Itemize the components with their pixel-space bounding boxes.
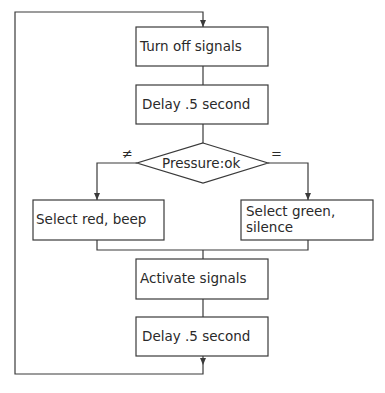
decision-label: Pressure:ok	[162, 155, 240, 172]
equal-label: =	[271, 146, 282, 161]
select-green-label-line2: silence	[246, 219, 293, 236]
turn-off-signals-label: Turn off signals	[140, 38, 242, 55]
select-green-label-line1: Select green,	[246, 203, 335, 220]
arrow-down-icon	[200, 20, 206, 27]
select-red-label: Select red, beep	[36, 211, 146, 228]
equal-branch	[268, 163, 308, 200]
merge-connector	[97, 240, 308, 250]
activate-signals-label: Activate signals	[140, 270, 247, 287]
delay-label-1: Delay .5 second	[142, 96, 250, 113]
arrow-down-icon	[94, 193, 100, 200]
delay-label-2: Delay .5 second	[142, 328, 250, 345]
not-equal-label: ≠	[122, 146, 133, 161]
arrow-down-icon	[305, 193, 311, 200]
not-equal-branch	[97, 163, 137, 200]
